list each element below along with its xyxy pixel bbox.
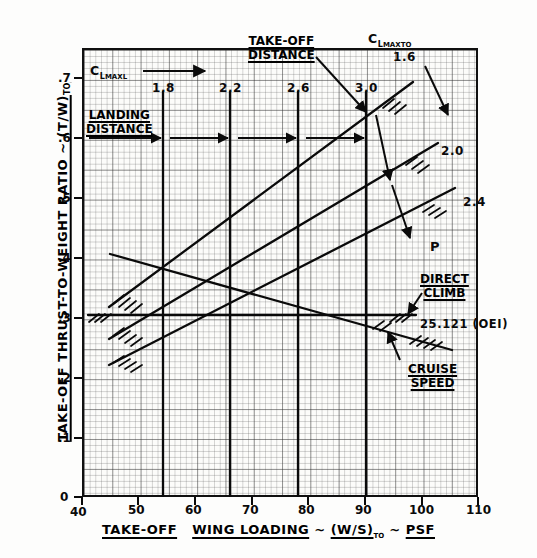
direct-climb-line2: CLIMB <box>420 286 469 300</box>
x-tick-label-80: 80 <box>298 503 315 517</box>
takeoff-distance-line1: TAKE-OFF <box>248 34 315 48</box>
clmax-takeoff-label: CLMAXTO <box>368 32 411 49</box>
x-axis-title-tilde-b: ~ <box>389 522 400 537</box>
landing-distance-line1: LANDING <box>86 108 153 122</box>
x-tick-label-100: 100 <box>409 503 434 517</box>
takeoff-value-label-2-0: 2.0 <box>441 145 464 158</box>
y-tick-label-0: 0 <box>60 490 68 504</box>
figure-root: .7 .6 .5 .4 .3 .2 .1 0 40 50 60 70 80 90… <box>0 0 537 558</box>
x-axis-title-part3: (W/S) <box>331 522 374 537</box>
y-axis-title: TAKE-OFF THRUST-TO-WEIGHT RATIO ~ (T/W)T… <box>52 52 73 472</box>
x-tick-label-70: 70 <box>242 503 259 517</box>
x-axis-title-part1: TAKE-OFF <box>102 522 177 537</box>
y-axis-title-subscript: TO <box>63 83 72 95</box>
x-axis-title-tilde-a: ~ <box>314 522 325 537</box>
takeoff-value-label-2-4: 2.4 <box>463 196 486 209</box>
landing-distance-line2: DISTANCE <box>86 122 153 136</box>
x-axis-title: TAKE-OFF WING LOADING ~ (W/S)TO ~ PSF <box>0 522 537 540</box>
clmax-landing-sub2: L <box>123 73 127 81</box>
cruise-speed-line2: SPEED <box>408 376 457 390</box>
y-axis-title-main: TAKE-OFF THRUST-TO-WEIGHT RATIO ~ (T/W) <box>55 95 70 442</box>
clmax-landing-mid: MAX <box>105 73 123 81</box>
takeoff-distance-line2: DISTANCE <box>248 48 315 62</box>
x-tick-label-60: 60 <box>185 503 202 517</box>
cruise-speed-label: CRUISE SPEED <box>408 362 457 390</box>
clmax-takeoff-mid: MAX <box>383 41 401 49</box>
landing-value-label-3-0: 3.0 <box>355 82 378 95</box>
x-axis-title-subscript: TO <box>374 532 385 540</box>
y-axis-ticks <box>74 78 82 497</box>
direct-climb-label: DIRECT CLIMB <box>420 272 469 300</box>
x-axis-title-part2: WING LOADING <box>192 522 309 537</box>
landing-value-label-2-6: 2.6 <box>287 82 310 95</box>
x-tick-label-50: 50 <box>128 503 145 517</box>
clmax-landing-label: CLMAXL <box>90 64 127 81</box>
clmax-landing-base: C <box>90 63 100 78</box>
x-tick-label-90: 90 <box>355 503 372 517</box>
x-axis-title-part4: PSF <box>406 522 435 537</box>
x-tick-label-110: 110 <box>466 503 491 517</box>
landing-value-label-2-2: 2.2 <box>219 82 242 95</box>
x-tick-label-40: 40 <box>70 505 87 519</box>
oei-regulation-label: 25.121 (OEI) <box>420 318 508 330</box>
design-point-label: P <box>430 240 440 254</box>
takeoff-value-label-1-6: 1.6 <box>393 51 416 64</box>
landing-value-label-1-8: 1.8 <box>152 82 175 95</box>
clmax-takeoff-base: C <box>368 31 378 46</box>
cruise-speed-line1: CRUISE <box>408 362 457 376</box>
takeoff-distance-label: TAKE-OFF DISTANCE <box>248 34 315 62</box>
landing-distance-label: LANDING DISTANCE <box>86 108 153 136</box>
clmax-takeoff-sub2: TO <box>401 41 412 49</box>
direct-climb-line1: DIRECT <box>420 272 469 286</box>
